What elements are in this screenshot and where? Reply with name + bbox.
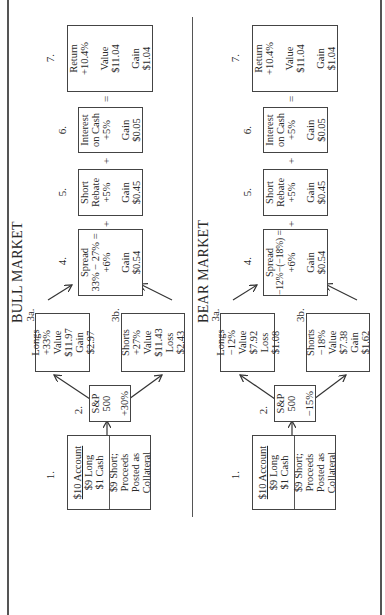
- bull-step2-sp500-box: S&P 500 +30%: [89, 385, 131, 422]
- bull-step7-line4: $11.04: [110, 44, 121, 73]
- bull-step6-line3: +5%: [101, 120, 112, 140]
- bear-step1-line1: $10 Account: [257, 446, 268, 499]
- bear-plus-operator-1: +: [285, 217, 297, 231]
- bear-step5-line3: +5%: [286, 183, 297, 203]
- bear-step5-rebate-box: Short Rebate +5% Gain $0.45: [263, 169, 328, 216]
- arrow-2-to-3b-bull: [129, 375, 162, 399]
- bull-plus-operator-2: +: [100, 154, 112, 168]
- bear-step2-number: 2.: [257, 395, 269, 425]
- bull-step1-line4: $9 Short;: [108, 453, 119, 492]
- bear-step7-return-box: Return +10.4% Value $11.04 Gain $1.04: [252, 25, 338, 92]
- bull-step6-line2: on Cash: [90, 113, 101, 147]
- bear-step6-line1: Interest: [264, 114, 275, 146]
- bull-step6-line5: $0.05: [131, 118, 142, 142]
- arrow-3b-to-4-bear: [325, 284, 357, 300]
- bull-step1-account-box: $10 Account $9 Long $1 Cash $9 Short; Pr…: [67, 435, 151, 510]
- bull-step3b-line3: Value: [142, 331, 153, 355]
- bull-step5-line4: Gain: [120, 182, 131, 202]
- bear-step3a-line4: $7.92: [248, 331, 259, 355]
- bull-step2-line2: 500: [101, 396, 112, 412]
- diagram-landscape: BULL MARKET 1. $10 Account $9 Long $1 Ca…: [0, 0, 385, 615]
- bull-step1-bottom: $9 Short; Proceeds Posted as Collateral: [110, 436, 150, 509]
- bear-step7-line6: $1.04: [326, 47, 337, 71]
- bull-step3b-line4: $11.43: [153, 328, 164, 357]
- bear-step5-line1: Short: [264, 181, 275, 204]
- bull-step3b-line5: Loss: [164, 333, 175, 353]
- bear-step6-number: 6.: [241, 115, 253, 145]
- bull-step2-change: +30%: [119, 391, 130, 416]
- bull-step2-number: 2.: [72, 395, 84, 425]
- bull-step3b-line2: +27%: [131, 330, 142, 355]
- bear-step3a-line3: Value: [237, 331, 248, 355]
- bear-step1-number: 1.: [229, 460, 241, 490]
- bear-step3a-line6: $1.08: [270, 331, 281, 355]
- bull-step7-line6: $1.04: [141, 47, 152, 71]
- bear-step2-line2: 500: [286, 396, 297, 412]
- bear-step3b-line5: Gain: [349, 332, 360, 352]
- bear-step2-change: −15%: [304, 391, 315, 416]
- bull-step3a-longs-box: Longs +33% Value $11.97 Gain $2.97: [35, 313, 90, 372]
- bull-equals-operator: =: [100, 92, 112, 106]
- bear-step3a-line5: Loss: [259, 333, 270, 353]
- bull-step3a-line3: Value: [52, 331, 63, 355]
- bear-step3b-number: 3b.: [294, 300, 306, 330]
- bull-step7-line3: Value: [99, 47, 110, 71]
- bear-step7-number: 7.: [229, 43, 241, 73]
- bull-step4-number: 4.: [56, 246, 68, 276]
- bear-step5-line5: $0.45: [316, 181, 327, 205]
- bear-step4-line3: +6%: [286, 253, 297, 273]
- bull-step4-line1: Spread: [79, 248, 90, 277]
- bull-step3b-shorts-box: Shorts +27% Value $11.43 Loss $2.43: [121, 313, 185, 372]
- bear-step3a-longs-box: Longs −12% Value $7.92 Loss $1.08: [220, 313, 275, 372]
- bull-step5-line1: Short: [79, 181, 90, 204]
- bear-step3b-line6: $1.62: [360, 331, 371, 355]
- bear-step7-line1: Return: [253, 44, 264, 73]
- bull-step4-line2: 33% − 27% =: [90, 233, 101, 291]
- bear-step4-line4: Gain: [305, 252, 316, 272]
- bear-step7-line5: Gain: [315, 48, 326, 68]
- bear-step7-line2: +10.4%: [264, 42, 275, 75]
- bear-step3b-line4: $7.38: [338, 331, 349, 355]
- bear-step3a-line2: −12%: [226, 330, 237, 355]
- arrow-3a-to-4-bear: [233, 285, 257, 300]
- bull-step5-number: 5.: [56, 177, 68, 207]
- bull-step1-line5: Proceeds: [119, 454, 130, 492]
- bull-step2-line1: S&P: [90, 394, 101, 414]
- bull-step3b-number: 3b.: [109, 300, 121, 330]
- bull-step3b-line6: $2.43: [175, 331, 186, 355]
- bear-step2-line1: S&P: [275, 394, 286, 414]
- bear-step1-line5: Proceeds: [304, 454, 315, 492]
- bull-step7-return-box: Return +10.4% Value $11.04 Gain $1.04: [67, 25, 153, 92]
- bull-step3a-line6: $2.97: [85, 331, 96, 355]
- bull-step6-number: 6.: [56, 115, 68, 145]
- bull-step5-line2: Rebate: [90, 178, 101, 207]
- bull-step7-line2: +10.4%: [79, 42, 90, 75]
- arrow-3b-to-4-bull: [140, 284, 172, 300]
- bear-step5-line4: Gain: [305, 182, 316, 202]
- bull-step3b-line1: Shorts: [120, 329, 131, 356]
- bear-step6-line5: $0.05: [316, 118, 327, 142]
- bear-step3b-line3: Value: [327, 331, 338, 355]
- bear-step4-number: 4.: [241, 246, 253, 276]
- arrow-3a-to-4-bull: [48, 285, 72, 300]
- bear-step1-line7: Collateral: [326, 452, 337, 493]
- bull-step5-line5: $0.45: [131, 181, 142, 205]
- bear-step5-number: 5.: [241, 177, 253, 207]
- bull-step4-spread-box: Spread 33% − 27% = +6% Gain $0.54: [78, 229, 143, 296]
- bear-step3b-shorts-box: Shorts −18% Value $7.38 Gain $1.62: [306, 313, 370, 372]
- bear-step4-spread-box: Spread −12%−(−18%) = +6% Gain $0.54: [263, 229, 328, 296]
- bear-step1-top: $10 Account $9 Long $1 Cash: [253, 436, 295, 509]
- bull-step7-line5: Gain: [130, 48, 141, 68]
- bear-step7-line4: $11.04: [295, 44, 306, 73]
- bull-step4-line4: Gain: [120, 252, 131, 272]
- bull-step5-line3: +5%: [101, 183, 112, 203]
- bear-step3b-line1: Shorts: [305, 329, 316, 356]
- bull-plus-operator-1: +: [100, 217, 112, 231]
- bear-step5-line2: Rebate: [275, 178, 286, 207]
- bull-step3a-line5: Gain: [74, 332, 85, 352]
- bear-step3b-line2: −18%: [316, 330, 327, 355]
- bull-step1-line2: $9 Long: [83, 455, 94, 490]
- bear-step4-line5: $0.54: [316, 251, 327, 275]
- bull-step1-number: 1.: [44, 460, 56, 490]
- bear-step6-interest-box: Interest on Cash +5% Gain $0.05: [263, 107, 328, 153]
